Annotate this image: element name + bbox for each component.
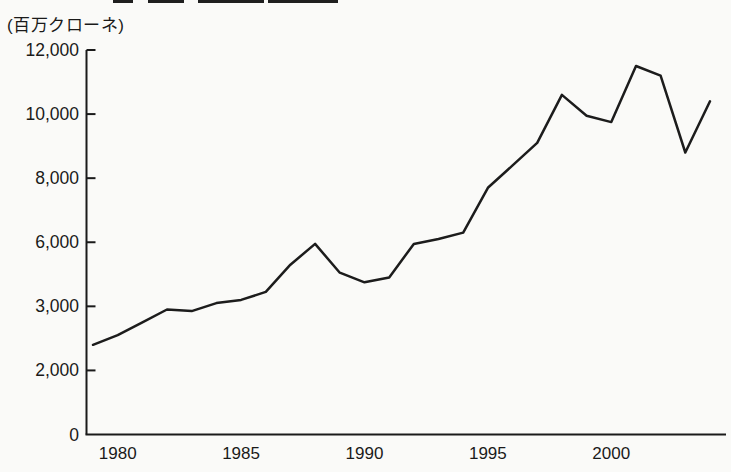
- data-line: [93, 66, 710, 345]
- line-chart: 02,0003,0006,0008,00010,00012,0001980198…: [0, 0, 731, 472]
- y-tick-label: 3,000: [35, 296, 79, 316]
- x-tick-label: 1990: [346, 444, 384, 463]
- x-tick-label: 1995: [469, 444, 507, 463]
- y-tick-label: 0: [69, 425, 79, 445]
- x-tick-label: 1985: [222, 444, 260, 463]
- x-tick-label: 1980: [99, 444, 137, 463]
- y-tick-label: 2,000: [35, 360, 79, 380]
- y-tick-label: 10,000: [25, 104, 79, 124]
- y-tick-label: 8,000: [35, 168, 79, 188]
- y-tick-label: 6,000: [35, 232, 79, 252]
- y-tick-label: 12,000: [25, 40, 79, 60]
- x-tick-label: 2000: [592, 444, 630, 463]
- scanned-chart-page: (百万クローネ) 02,0003,0006,0008,00010,00012,0…: [0, 0, 731, 472]
